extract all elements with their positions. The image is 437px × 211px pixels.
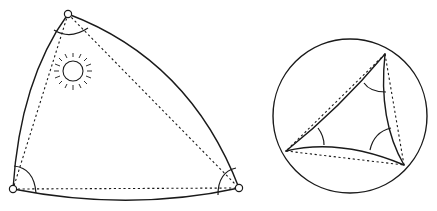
angle-marks bbox=[14, 28, 236, 195]
sun-icon bbox=[54, 53, 92, 90]
straight-chords bbox=[13, 14, 239, 189]
curved-edges bbox=[13, 14, 239, 200]
vertices bbox=[9, 10, 242, 192]
diagram-canvas: Geodesic triangles: a spherical triangle… bbox=[0, 0, 437, 211]
vertex-bottom-left bbox=[9, 185, 16, 192]
vertex-bottom-right bbox=[235, 184, 242, 191]
angle-marks bbox=[318, 83, 391, 150]
spherical-triangle bbox=[9, 10, 242, 200]
hyperbolic-disk-figure bbox=[273, 39, 427, 193]
boundary-circle bbox=[273, 39, 427, 193]
vertex-top bbox=[64, 10, 71, 17]
curved-edges bbox=[286, 54, 404, 165]
